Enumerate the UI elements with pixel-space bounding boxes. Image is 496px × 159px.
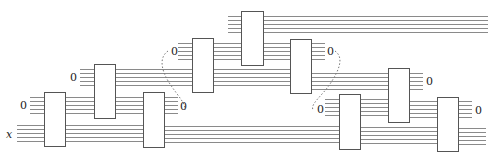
label-zero-5: 0: [327, 45, 334, 58]
wire-bundle: [213, 44, 241, 60]
wire-bundle: [80, 70, 94, 86]
wire-bundle: [409, 74, 423, 90]
wire-bundle: [65, 98, 94, 114]
box-2: [95, 65, 116, 119]
box-8: [389, 69, 410, 123]
box-9: [438, 98, 459, 152]
wire-bundle: [115, 70, 192, 86]
circuit-diagram: x00000000: [0, 0, 496, 159]
wire-bundle: [263, 17, 488, 33]
label-zero-2: 0: [70, 71, 77, 84]
wire-bundle: [164, 98, 178, 114]
wire-bundle: [458, 102, 472, 118]
wire-bundle: [213, 70, 290, 86]
label-x: x: [6, 128, 13, 141]
box-1: [45, 93, 66, 147]
box-7: [340, 95, 361, 150]
box-3: [144, 93, 165, 148]
wire-bundle: [65, 126, 143, 142]
box-6: [291, 40, 312, 94]
label-zero-3: 0: [171, 45, 178, 58]
label-zero-8: 0: [475, 104, 482, 117]
wire-bundle: [325, 100, 339, 116]
label-zero-7: 0: [426, 75, 433, 88]
label-zero-6: 0: [317, 103, 324, 116]
circuit-canvas: x00000000: [0, 0, 496, 159]
wire-bundle: [115, 98, 143, 114]
label-zero-1: 0: [20, 99, 27, 112]
wire-bundle: [178, 44, 192, 60]
wire-bundle: [164, 127, 339, 143]
wire-bundle: [263, 44, 290, 60]
wire-bundle: [228, 17, 241, 33]
wire-bundle: [360, 100, 388, 116]
box-4: [193, 39, 214, 93]
wire-bundle: [17, 126, 44, 142]
box-5: [242, 12, 264, 66]
wire-bundle: [409, 102, 437, 118]
wire-bundle: [311, 44, 325, 60]
label-zero-4: 0: [180, 100, 187, 113]
wire-bundle: [30, 98, 44, 114]
wire-bundle: [458, 129, 486, 145]
wire-bundle: [360, 128, 437, 144]
wire-bundle: [311, 74, 388, 90]
